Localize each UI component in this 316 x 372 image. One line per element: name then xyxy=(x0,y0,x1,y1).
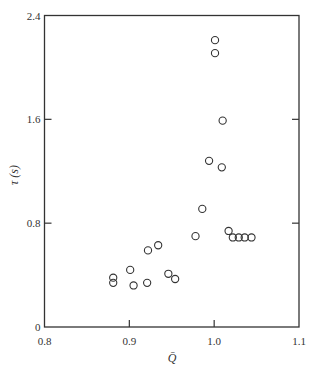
data-point-circle xyxy=(165,270,172,277)
data-point-circle xyxy=(144,247,151,254)
x-axis-label: Q̄ xyxy=(168,351,177,365)
y-tick-label: 0.8 xyxy=(27,217,41,229)
axis-ticks xyxy=(45,119,300,327)
y-axis-label: τ (s) xyxy=(7,165,21,185)
data-point-circle xyxy=(211,50,218,57)
data-point-circle xyxy=(211,37,218,44)
data-point-circle xyxy=(192,233,199,240)
data-point-circle xyxy=(130,282,137,289)
data-point-circle xyxy=(155,242,162,249)
data-point-circle xyxy=(218,164,225,171)
data-point-circle xyxy=(127,266,134,273)
data-point-circle xyxy=(172,275,179,282)
data-point-circle xyxy=(110,279,117,286)
y-tick-label: 2.4 xyxy=(27,10,41,22)
scatter-plot: 0.80.91.01.100.81.62.4 Q̄ τ (s) xyxy=(0,0,316,372)
x-tick-label: 0.9 xyxy=(122,335,136,347)
y-tick-label: 1.6 xyxy=(27,113,41,125)
data-point-circle xyxy=(144,279,151,286)
data-point-circle xyxy=(205,157,212,164)
tick-labels: 0.80.91.01.100.81.62.4 xyxy=(27,10,306,348)
data-points xyxy=(110,37,255,290)
data-point-circle xyxy=(219,117,226,124)
data-point-circle xyxy=(225,227,232,234)
x-tick-label: 1.1 xyxy=(292,335,306,347)
x-tick-label: 1.0 xyxy=(207,335,221,347)
data-point-circle xyxy=(248,234,255,241)
y-tick-label: 0 xyxy=(35,321,41,333)
x-tick-label: 0.8 xyxy=(38,335,52,347)
data-point-circle xyxy=(199,205,206,212)
